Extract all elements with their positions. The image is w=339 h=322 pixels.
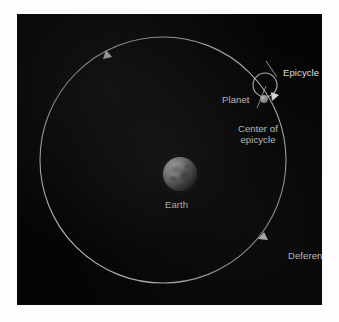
- earth-globe: [163, 157, 197, 191]
- label-earth: Earth: [165, 199, 188, 210]
- label-center-of-epicycle-line2: epicycle: [240, 134, 275, 145]
- label-deferent: Deferent: [288, 250, 322, 261]
- planet-marker: [260, 95, 268, 103]
- label-epicycle: Epicycle: [283, 67, 319, 78]
- label-center-of-epicycle: Center ofepicycle: [238, 123, 278, 145]
- label-center-of-epicycle-line1: Center of: [238, 123, 278, 134]
- diagram-panel: Epicycle Planet Center ofepicycle Earth …: [17, 14, 322, 305]
- figure-canvas: Epicycle Planet Center ofepicycle Earth …: [0, 0, 339, 322]
- earth-terminator-shading: [163, 157, 197, 191]
- background-glow: [17, 14, 313, 305]
- label-planet: Planet: [222, 94, 250, 105]
